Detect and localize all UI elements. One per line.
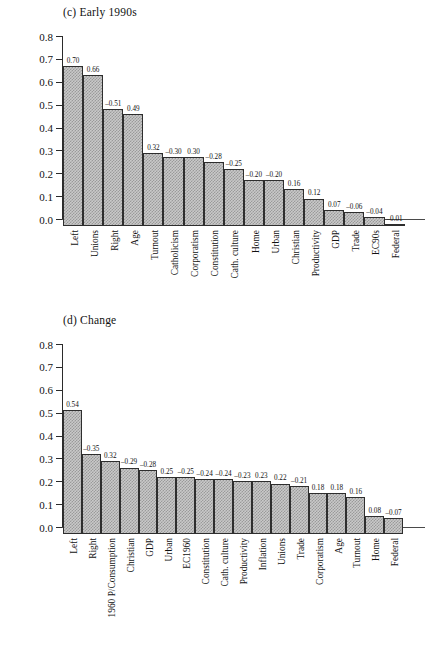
bar[interactable] xyxy=(63,410,82,534)
y-axis-tick: 0.6 xyxy=(56,82,62,83)
x-axis-category-label: Cath. culture xyxy=(220,538,230,586)
x-axis-category-label-wrap: Urban xyxy=(271,207,281,230)
x-axis-category-label: Inflation xyxy=(258,538,268,570)
x-axis-category-label-wrap: GDP xyxy=(145,519,155,538)
x-axis-category-label-wrap: Trade xyxy=(296,516,306,538)
bar-slot: 0.16Christian xyxy=(284,43,304,226)
y-axis-tick: 0.5 xyxy=(56,413,62,414)
bar-value-label: –0.23 xyxy=(234,473,250,480)
bar-slot: –0.35Right xyxy=(82,351,101,534)
plot-area-d: Correlation 0.54Left–0.35Right0.321960 P… xyxy=(0,344,444,534)
bar-slot: –0.25Cath. culture xyxy=(224,43,244,226)
x-axis-category-label-wrap: Left xyxy=(69,522,79,538)
bar-group-c: 0.70Left0.66Unions–0.51Right0.49Age0.32T… xyxy=(63,43,405,226)
bar-slot: 0.25Urban xyxy=(157,351,176,534)
bar-value-label: –0.51 xyxy=(105,101,121,108)
x-axis-category-label-wrap: Federal xyxy=(391,202,401,230)
y-axis-tick-label: 0.4 xyxy=(39,123,56,134)
bar-slot: 0.18Age xyxy=(327,351,346,534)
x-axis-category-label-wrap: Christian xyxy=(126,504,136,538)
x-axis-category-label: Productivity xyxy=(239,538,249,584)
x-axis-category-label: Home xyxy=(371,538,381,561)
plot-area-c: Correlation 0.70Left0.66Unions–0.51Right… xyxy=(0,36,444,226)
bar-value-label: 0.49 xyxy=(127,106,140,113)
bar-value-label: 0.30 xyxy=(187,149,200,156)
x-axis-category-label-wrap: Catholicism xyxy=(170,185,180,230)
y-axis-tick: 0.6 xyxy=(56,390,62,391)
x-axis-category-label-wrap: Constitution xyxy=(210,184,220,230)
bar-slot: –0.24Cath. culture xyxy=(214,351,233,534)
x-axis-category-label: Trade xyxy=(351,230,361,252)
bar-value-label: –0.29 xyxy=(121,459,137,466)
y-axis-tick: 0.7 xyxy=(56,59,62,60)
bar-slot: –0.04EC90s xyxy=(364,43,384,226)
y-axis-tick-label: 0.8 xyxy=(39,339,56,350)
y-axis-tick: 0.8 xyxy=(56,344,62,345)
bar-value-label: –0.20 xyxy=(246,172,262,179)
x-axis-category-label: Urban xyxy=(271,230,281,253)
x-axis-category-label: Urban xyxy=(164,538,174,561)
x-axis-category-label: Federal xyxy=(390,538,400,566)
bar-slot: 0.54Left xyxy=(63,351,82,534)
x-axis-category-label-wrap: Age xyxy=(334,522,344,538)
x-axis-category-label: Right xyxy=(88,538,98,559)
x-axis-category-label: Left xyxy=(70,230,80,246)
bar-value-label: –0.20 xyxy=(266,172,282,179)
x-axis-category-label-wrap: GDP xyxy=(331,211,341,230)
y-axis-tick-label: 0.5 xyxy=(39,408,56,419)
panel-title-d: (d) Change xyxy=(63,314,116,326)
bar-slot: –0.28Constitution xyxy=(204,43,224,226)
x-axis-category-label: Corporatism xyxy=(315,538,325,585)
y-axis-tick-label: 0.8 xyxy=(39,31,56,42)
x-axis-category-label: Right xyxy=(110,230,120,251)
bar-value-label: 0.18 xyxy=(331,485,344,492)
bar-value-label: 0.07 xyxy=(328,202,341,209)
x-axis-category-label: Turnout xyxy=(150,230,160,260)
bar-slot: –0.20Urban xyxy=(264,43,284,226)
y-axis-tick-label: 0.4 xyxy=(39,431,56,442)
bar-value-label: –0.25 xyxy=(226,161,242,168)
bar-value-label: –0.28 xyxy=(206,154,222,161)
x-axis-category-label-wrap: Home xyxy=(251,207,261,230)
x-axis-category-label-wrap: Unions xyxy=(277,511,287,538)
bar-slot: 0.07GDP xyxy=(324,43,344,226)
x-axis-category-label-wrap: Inflation xyxy=(258,506,268,538)
bar-slot: 0.23Inflation xyxy=(252,351,271,534)
bar-slot: 0.18Corporatism xyxy=(309,351,328,534)
x-axis-category-label-wrap: Trade xyxy=(351,208,361,230)
y-axis-tick-label: 0.3 xyxy=(39,145,56,156)
x-axis-category-label: Christian xyxy=(126,538,136,572)
x-axis-category-label-wrap: Turnout xyxy=(352,508,362,538)
x-axis-category-label-wrap: Unions xyxy=(90,203,100,230)
bar-slot: –0.23Productivity xyxy=(233,351,252,534)
bar-slot: 0.49Age xyxy=(123,43,143,226)
bar[interactable] xyxy=(63,66,83,226)
y-axis-tick-label: 0.5 xyxy=(39,100,56,111)
bar-slot: –0.06Trade xyxy=(344,43,364,226)
bar-slot: 0.08Home xyxy=(365,351,384,534)
x-axis-category-label: Turnout xyxy=(352,538,362,568)
x-axis-category-label: GDP xyxy=(331,230,341,249)
y-axis-tick-label: 0.7 xyxy=(39,54,56,65)
y-axis-tick: 0.8 xyxy=(56,36,62,37)
bar-slot: 0.32Turnout xyxy=(143,43,163,226)
bar-value-label: 0.25 xyxy=(161,469,174,476)
y-axis-tick: 0.0 xyxy=(56,219,62,220)
y-axis-tick-label: 0.2 xyxy=(39,476,56,487)
x-axis-category-label-wrap: EC1960 xyxy=(182,507,192,538)
bar[interactable] xyxy=(123,114,143,226)
x-axis-category-label-wrap: Urban xyxy=(164,515,174,538)
bar-value-label: 0.23 xyxy=(255,473,268,480)
x-axis-category-label: 1960 P/Consumption xyxy=(107,538,117,617)
y-axis-tick: 0.7 xyxy=(56,367,62,368)
y-axis-tick: 0.2 xyxy=(56,173,62,174)
bar-value-label: –0.25 xyxy=(178,469,194,476)
x-axis-category-label: Cath. culture xyxy=(230,230,240,278)
y-axis-tick: 0.2 xyxy=(56,481,62,482)
y-axis-tick-label: 0.2 xyxy=(39,168,56,179)
y-axis-tick-label: 0.3 xyxy=(39,453,56,464)
x-axis-category-label: Productivity xyxy=(311,230,321,276)
bar-value-label: –0.35 xyxy=(83,446,99,453)
bar-group-d: 0.54Left–0.35Right0.321960 P/Consumption… xyxy=(63,351,403,534)
bar-slot: –0.51Right xyxy=(103,43,123,226)
